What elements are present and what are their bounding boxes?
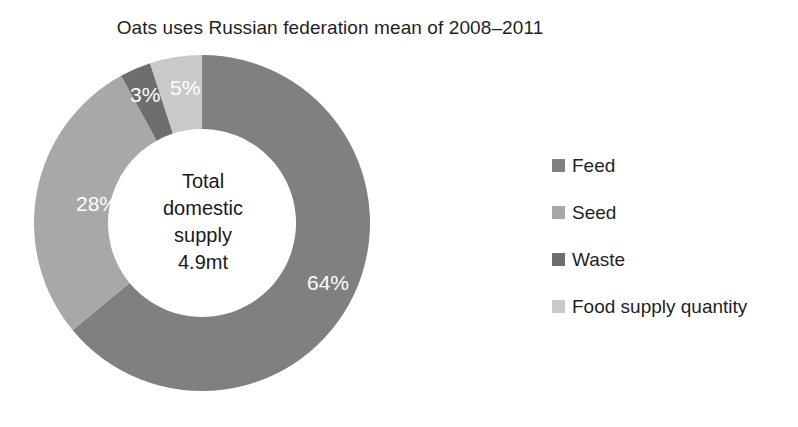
chart-title: Oats uses Russian federation mean of 200…	[0, 16, 660, 40]
slice-value-label-food-supply-quantity: 5%	[170, 76, 200, 99]
legend-item-seed[interactable]: Seed	[552, 189, 792, 236]
legend-label-seed: Seed	[572, 202, 616, 224]
legend-swatch-seed	[552, 206, 565, 219]
slice-value-label-waste: 3%	[130, 83, 160, 106]
legend-label-waste: Waste	[572, 249, 625, 271]
center-line-1: Total	[108, 168, 298, 195]
center-line-4: 4.9mt	[108, 249, 298, 276]
center-line-3: supply	[108, 222, 298, 249]
legend-item-food-supply-quantity[interactable]: Food supply quantity	[552, 283, 792, 330]
legend-item-waste[interactable]: Waste	[552, 236, 792, 283]
donut-chart-figure: Oats uses Russian federation mean of 200…	[0, 0, 798, 427]
legend-item-feed[interactable]: Feed	[552, 142, 792, 189]
chart-legend: Feed Seed Waste Food supply quantity	[552, 142, 792, 330]
legend-swatch-food-supply-quantity	[552, 300, 565, 313]
legend-label-feed: Feed	[572, 155, 615, 177]
legend-label-food-supply-quantity: Food supply quantity	[572, 296, 747, 318]
slice-value-label-feed: 64%	[307, 271, 349, 294]
center-line-2: domestic	[108, 195, 298, 222]
legend-swatch-waste	[552, 253, 565, 266]
legend-swatch-feed	[552, 159, 565, 172]
center-total-annotation: Total domestic supply 4.9mt	[108, 168, 298, 276]
